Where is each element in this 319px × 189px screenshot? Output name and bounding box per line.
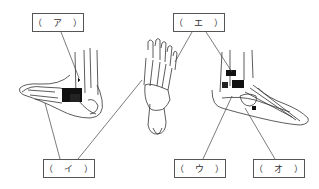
label-o: （ オ ）: [253, 159, 305, 178]
label-a: （ ア ）: [32, 13, 84, 32]
label-u: （ ウ ）: [174, 159, 226, 178]
dorsal-foot-view: [144, 39, 177, 135]
lateral-foot-view: [212, 50, 308, 125]
label-i: （ イ ）: [43, 159, 95, 178]
label-e: （ エ ）: [173, 13, 225, 32]
medial-foot-view: [20, 48, 103, 118]
